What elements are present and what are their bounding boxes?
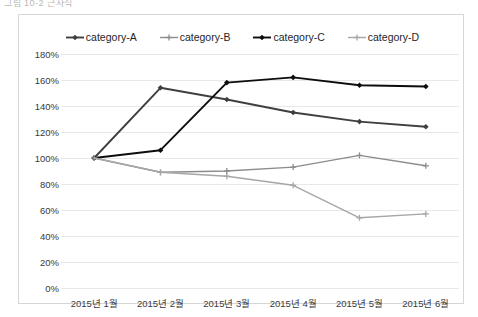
x-tick-label: 2015년 2월 [137, 296, 184, 310]
x-tick-label: 2015년 3월 [203, 296, 250, 310]
x-tick-label: 2015년 6월 [402, 296, 449, 310]
x-axis: 2015년 1월2015년 2월2015년 3월2015년 4월2015년 5월… [19, 15, 465, 305]
x-tick-label: 2015년 4월 [270, 296, 317, 310]
chart-container: category-Acategory-Bcategory-Ccategory-D… [18, 14, 464, 304]
toolbar-strip: 그림 10-2 근사식 [0, 0, 478, 12]
x-tick-label: 2015년 5월 [336, 296, 383, 310]
document-caption-text: 그림 10-2 근사식 [4, 0, 73, 9]
x-tick-label: 2015년 1월 [71, 296, 118, 310]
